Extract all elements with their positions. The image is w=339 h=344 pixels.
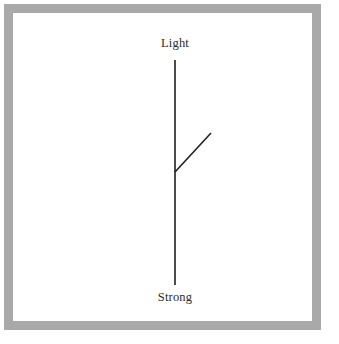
bottom-node-label: Strong bbox=[158, 290, 193, 305]
diagonal-branch-line bbox=[175, 133, 211, 172]
top-node-label: Light bbox=[161, 36, 189, 51]
figure-root: Light Strong bbox=[0, 0, 339, 344]
